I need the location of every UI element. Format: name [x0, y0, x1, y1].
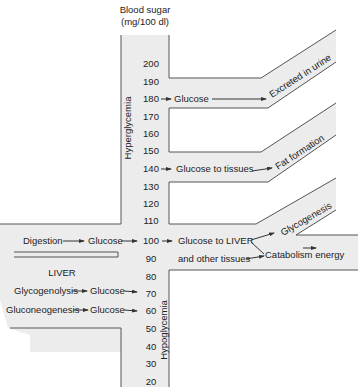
gluconeogenesis-label: Gluconeogenesis	[6, 304, 80, 315]
tick-20: 20	[146, 376, 157, 387]
tick-70: 70	[146, 288, 157, 299]
liver-branch-label-1: Glucose to LIVER	[178, 235, 254, 246]
tick-120: 120	[143, 198, 159, 209]
blood-sugar-diagram: Blood sugar (mg/100 dl) 200 190 180 170 …	[0, 0, 358, 387]
tick-170: 170	[143, 111, 159, 122]
catabolism-label: Catabolism energy	[265, 249, 344, 260]
tick-160: 160	[143, 128, 159, 139]
tick-110: 110	[143, 215, 158, 226]
diagram-canvas: Blood sugar (mg/100 dl) 200 190 180 170 …	[0, 0, 358, 387]
tick-190: 190	[143, 76, 159, 87]
gluconeogenesis-glucose-label: Glucose	[90, 304, 125, 315]
axis-title-line2: (mg/100 dl)	[121, 16, 169, 27]
tick-200: 200	[143, 58, 159, 69]
liver-title: LIVER	[48, 267, 76, 278]
tick-100: 100	[143, 235, 159, 246]
glycogenolysis-glucose-label: Glucose	[90, 285, 125, 296]
glycogenolysis-label: Glycogenolysis	[14, 285, 78, 296]
urine-source-label: Glucose	[174, 93, 209, 104]
zone-hyperglycemia: Hyperglycemia	[122, 96, 133, 160]
tick-80: 80	[146, 271, 157, 282]
tick-50: 50	[146, 323, 157, 334]
tick-30: 30	[146, 358, 157, 369]
zone-hypoglycemia: Hypoglycemia	[158, 299, 169, 359]
liver-branch-label-2: and other tissues	[178, 253, 251, 264]
tick-180: 180	[143, 93, 159, 104]
tick-90: 90	[146, 253, 157, 264]
tick-130: 130	[143, 181, 159, 192]
fat-source-label: Glucose to tissues	[176, 163, 254, 174]
axis-title-line1: Blood sugar	[120, 4, 171, 15]
tick-60: 60	[146, 305, 157, 316]
tick-40: 40	[146, 341, 157, 352]
digestion-label: Digestion	[23, 235, 63, 246]
digestion-glucose-label: Glucose	[88, 235, 123, 246]
tick-140: 140	[143, 163, 159, 174]
tick-150: 150	[143, 145, 159, 156]
